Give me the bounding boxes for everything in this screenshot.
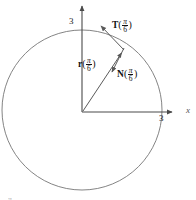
radius-vector-label: r(π6) [78,57,96,73]
paren-close: ) [128,19,131,30]
fraction-numerator: π [86,57,92,65]
fraction-numerator: π [122,18,128,26]
y-axis-tick-label: 3 [69,17,74,26]
pi-over-six-fraction: π6 [128,67,134,83]
tangent-vector-label: T(π6) [112,18,132,34]
fraction-denominator: 6 [86,64,92,73]
normal-vector-label: N(π6) [117,67,137,83]
pi-over-six-fraction: π6 [86,57,92,73]
figure-caption: π [8,195,12,200]
paren-open: ( [118,19,121,30]
fraction-denominator: 6 [122,25,128,34]
paren-close: ) [92,58,95,69]
geometry-figure: 3 3 x T(π6) r(π6) N(π6) π [0,0,196,200]
fraction-denominator: 6 [128,74,134,83]
x-axis-label: x [186,106,190,115]
diagram-canvas [0,0,196,200]
pi-over-six-fraction: π6 [122,18,128,34]
paren-open: ( [124,68,127,79]
paren-close: ) [134,68,137,79]
fraction-numerator: π [128,67,134,75]
x-axis-tick-label: 3 [159,114,164,123]
paren-open: ( [82,58,85,69]
normal-letter: N [117,69,124,79]
